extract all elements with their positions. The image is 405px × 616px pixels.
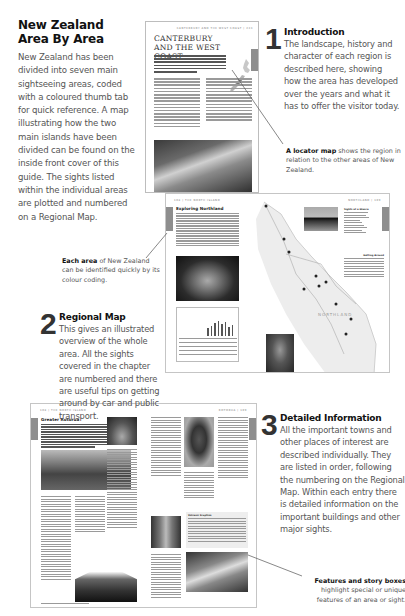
leader-lines	[0, 0, 405, 616]
